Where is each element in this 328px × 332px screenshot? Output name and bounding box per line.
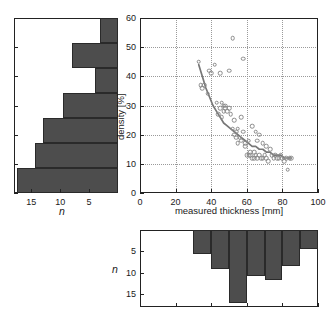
histogram-bar <box>229 230 247 303</box>
scatter-point <box>202 83 207 88</box>
scatter-point <box>266 159 271 164</box>
tick-mark-x <box>318 303 319 307</box>
scatter-point <box>227 106 232 111</box>
tick-mark-y <box>140 47 144 48</box>
gridline-horizontal <box>140 47 318 48</box>
histogram-bar <box>265 230 283 280</box>
tick-mark-x <box>282 189 283 193</box>
left-histogram-x-tick-label: 5 <box>87 198 92 207</box>
gridline-vertical <box>176 18 177 193</box>
tick-mark-y <box>140 164 144 165</box>
tick-mark-y <box>14 47 18 48</box>
histogram-bar <box>35 143 118 168</box>
tick-mark-x <box>211 303 212 307</box>
tick-mark-y <box>14 135 18 136</box>
scatter-point <box>250 124 255 129</box>
tick-mark-x <box>60 189 61 193</box>
scatter-point <box>228 112 233 117</box>
bottom-histogram-y-tick-label: 5 <box>116 247 136 256</box>
scatter-point <box>241 129 246 134</box>
gridline-vertical <box>282 18 283 193</box>
tick-mark-x <box>176 189 177 193</box>
scatter-y-tick-label: 60 <box>116 14 136 23</box>
left-histogram-x-axis-title: n <box>59 206 65 217</box>
scatter-point <box>218 71 223 76</box>
tick-mark-y <box>140 76 144 77</box>
scatter-point <box>255 138 260 143</box>
scatter-y-tick-label: 40 <box>116 72 136 81</box>
gridline-horizontal <box>140 135 318 136</box>
scatter-point <box>212 62 217 67</box>
tick-mark-y <box>14 164 18 165</box>
scatter-x-axis-title: measured thickness [mm] <box>175 206 283 216</box>
tick-mark-x <box>89 189 90 193</box>
scatter-point <box>239 115 244 120</box>
scatter-point <box>214 100 219 105</box>
histogram-bar <box>63 93 118 118</box>
scatter-y-tick-label: 10 <box>116 159 136 168</box>
scatter-y-axis-title: density [%] <box>116 94 126 140</box>
scatter-point <box>268 147 273 152</box>
scatter-point <box>289 156 294 161</box>
tick-mark-y <box>140 251 144 252</box>
histogram-bar <box>247 230 265 276</box>
gridline-horizontal <box>140 76 318 77</box>
bottom-histogram-y-axis-title: n <box>112 264 118 275</box>
tick-mark-x <box>140 303 141 307</box>
gridline-vertical <box>247 18 248 193</box>
tick-mark-y <box>140 18 144 19</box>
scatter-x-tick-label: 0 <box>137 198 142 207</box>
tick-mark-y <box>14 193 18 194</box>
histogram-bar <box>211 230 229 269</box>
scatter-y-tick-label: 50 <box>116 43 136 52</box>
scatter-point <box>209 71 214 76</box>
scatter-point <box>205 92 210 97</box>
scatter-point <box>196 59 201 64</box>
scatter-x-tick-label: 100 <box>310 198 325 207</box>
histogram-bar <box>282 230 300 266</box>
scatter-point <box>285 167 290 172</box>
left-histogram-panel <box>14 18 118 193</box>
tick-mark-y <box>140 135 144 136</box>
bottom-histogram-panel <box>140 230 318 307</box>
tick-mark-y <box>14 106 18 107</box>
tick-mark-x <box>282 303 283 307</box>
gridline-horizontal <box>140 164 318 165</box>
histogram-bar <box>43 118 118 143</box>
tick-mark-x <box>211 189 212 193</box>
scatter-point <box>232 118 237 123</box>
tick-mark-y <box>140 273 144 274</box>
histogram-bar <box>72 43 118 68</box>
scatter-point <box>220 115 225 120</box>
tick-mark-y <box>140 294 144 295</box>
scatter-point <box>241 57 246 62</box>
bottom-histogram-y-tick-label: 10 <box>116 268 136 277</box>
tick-mark-y <box>140 193 144 194</box>
left-histogram-x-tick-label: 15 <box>26 198 36 207</box>
tick-mark-y <box>14 18 18 19</box>
histogram-bar <box>300 230 318 249</box>
histogram-bar <box>95 68 118 93</box>
scatter-point <box>257 132 262 137</box>
scatter-point <box>246 138 251 143</box>
scatter-point <box>230 36 235 41</box>
tick-mark-y <box>140 106 144 107</box>
scatter-point <box>227 68 232 73</box>
scatter-y-tick-label: 0 <box>116 189 136 198</box>
tick-mark-y <box>14 76 18 77</box>
scatter-plot-panel <box>140 18 318 193</box>
tick-mark-x <box>31 189 32 193</box>
tick-mark-x <box>247 303 248 307</box>
tick-mark-x <box>318 189 319 193</box>
tick-mark-x <box>247 189 248 193</box>
tick-mark-x <box>176 303 177 307</box>
histogram-bar <box>193 230 211 254</box>
scatter-point <box>236 127 241 132</box>
bottom-histogram-y-tick-label: 15 <box>116 290 136 299</box>
gridline-vertical <box>211 18 212 193</box>
